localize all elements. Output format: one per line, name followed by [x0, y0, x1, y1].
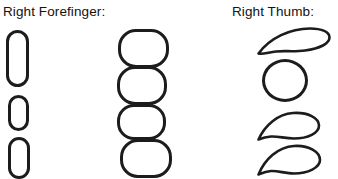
- wide-rounded-rect-4: [120, 139, 172, 178]
- wide-rounded-rect-3: [117, 104, 166, 140]
- label-right-forefinger: Right Forefinger:: [3, 5, 105, 19]
- narrow-stadium-medium: [8, 137, 30, 179]
- thumb-circle: [262, 59, 308, 102]
- narrow-stadium-small: [8, 95, 29, 131]
- narrow-stadium-tall: [6, 30, 29, 87]
- thumb-teardrop-1-icon: [256, 110, 324, 143]
- wide-rounded-rect-2: [117, 66, 167, 105]
- wide-rounded-rect-1: [118, 29, 169, 68]
- fingerprint-pattern-figure: Right Forefinger: Right Thumb:: [0, 0, 338, 179]
- thumb-teardrop-2-icon: [256, 143, 324, 178]
- thumb-leaf-flat-icon: [256, 26, 332, 56]
- label-right-thumb: Right Thumb:: [232, 5, 314, 19]
